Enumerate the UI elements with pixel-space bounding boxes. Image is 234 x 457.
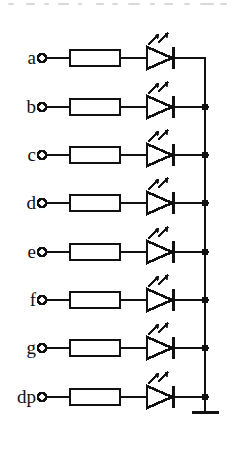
segment-label-e: e — [28, 241, 36, 262]
led-triangle-a[interactable] — [147, 47, 172, 69]
input-terminal-f[interactable] — [38, 296, 46, 304]
led-emission-arrow-a-2 — [158, 33, 168, 43]
series-resistor-g[interactable] — [70, 340, 120, 356]
led-branch-g[interactable]: g — [27, 323, 209, 359]
input-terminal-a[interactable] — [38, 54, 46, 62]
led-branch-dp[interactable]: dp — [17, 372, 209, 408]
segment-label-b: b — [27, 96, 37, 117]
series-resistor-f[interactable] — [70, 292, 120, 308]
input-terminal-c[interactable] — [38, 151, 46, 159]
input-terminal-b[interactable] — [38, 103, 46, 111]
led-triangle-g[interactable] — [147, 337, 172, 359]
series-resistor-b[interactable] — [70, 99, 120, 115]
segment-label-f: f — [30, 289, 37, 310]
led-emission-arrow-c-1 — [148, 131, 159, 142]
segment-label-dp: dp — [17, 386, 36, 407]
series-resistor-c[interactable] — [70, 147, 120, 163]
led-array-schematic: abcdefgdp — [0, 0, 234, 457]
led-emission-arrow-g-1 — [148, 324, 159, 335]
series-resistor-a[interactable] — [70, 50, 120, 66]
input-terminal-e[interactable] — [38, 248, 46, 256]
led-triangle-d[interactable] — [147, 192, 172, 214]
led-branch-e[interactable]: e — [28, 227, 209, 263]
led-emission-arrow-g-2 — [158, 323, 168, 333]
led-triangle-e[interactable] — [147, 241, 172, 263]
led-emission-arrow-d-1 — [148, 179, 159, 190]
led-emission-arrow-f-2 — [158, 275, 168, 285]
led-branch-a[interactable]: a — [28, 33, 205, 69]
led-branch-c[interactable]: c — [28, 130, 209, 166]
segment-label-a: a — [28, 47, 37, 68]
segment-label-g: g — [27, 337, 37, 358]
led-emission-arrow-a-1 — [148, 34, 159, 45]
led-emission-arrow-d-2 — [158, 178, 168, 188]
led-branch-f[interactable]: f — [30, 275, 209, 311]
led-triangle-c[interactable] — [147, 144, 172, 166]
led-emission-arrow-dp-1 — [148, 373, 159, 384]
input-terminal-d[interactable] — [38, 199, 46, 207]
led-triangle-b[interactable] — [147, 96, 172, 118]
led-emission-arrow-f-1 — [148, 276, 159, 287]
series-resistor-e[interactable] — [70, 244, 120, 260]
series-resistor-d[interactable] — [70, 195, 120, 211]
circuit-diagram-canvas: abcdefgdp — [0, 0, 234, 457]
input-terminal-dp[interactable] — [38, 393, 46, 401]
segment-label-d: d — [27, 192, 37, 213]
led-emission-arrow-c-2 — [158, 130, 168, 140]
segment-label-c: c — [28, 144, 36, 165]
led-emission-arrow-e-2 — [158, 227, 168, 237]
led-emission-arrow-e-1 — [148, 228, 159, 239]
input-terminal-g[interactable] — [38, 344, 46, 352]
led-branch-d[interactable]: d — [27, 178, 209, 214]
led-emission-arrow-dp-2 — [158, 372, 168, 382]
led-branch-b[interactable]: b — [27, 82, 209, 118]
led-triangle-f[interactable] — [147, 289, 172, 311]
led-emission-arrow-b-1 — [148, 83, 159, 94]
schematic-rows: abcdefgdp — [17, 33, 219, 412]
led-emission-arrow-b-2 — [158, 82, 168, 92]
led-triangle-dp[interactable] — [147, 386, 172, 408]
series-resistor-dp[interactable] — [70, 389, 120, 405]
